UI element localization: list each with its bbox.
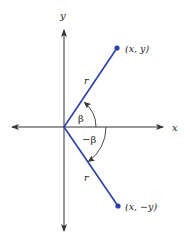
angle-beta-label: β bbox=[78, 113, 84, 124]
point-lower-label: (x, −y) bbox=[125, 201, 157, 212]
point-lower bbox=[115, 203, 120, 208]
arc-beta-icon bbox=[85, 103, 97, 128]
x-axis-label: x bbox=[172, 122, 178, 133]
point-upper-label: (x, y) bbox=[125, 43, 149, 54]
point-upper bbox=[114, 45, 119, 50]
y-axis-label: y bbox=[59, 10, 66, 21]
segment-lower-label: r bbox=[84, 172, 90, 183]
angle-neg-beta-label: −β bbox=[82, 134, 96, 145]
diagram-canvas: y x (x, y) (x, −y) r r β −β bbox=[0, 0, 190, 243]
ray-upper bbox=[64, 48, 117, 127]
segment-upper-label: r bbox=[84, 75, 90, 86]
